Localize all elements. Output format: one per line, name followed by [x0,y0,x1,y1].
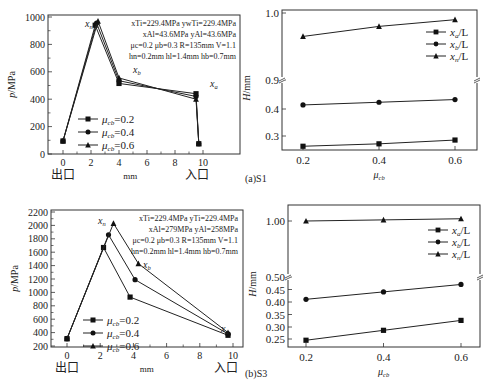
point-label: xn [84,18,93,30]
x-tick-label: 0.6 [448,154,462,166]
y-tick-label: 200 [30,121,45,132]
y-tick-label: 800 [33,300,48,311]
square-marker [300,144,305,149]
x-tick-label: 0.6 [454,351,468,363]
y-tick-label: 1800 [28,233,48,244]
legend-label: μcb=0.6 [101,139,135,153]
entry-label: 入口 [185,168,209,182]
point-label: xa [220,323,229,335]
square-marker [303,338,308,343]
x-tick-label: 0.2 [299,351,313,363]
point-label: xa [209,78,218,90]
y-axis-label: H/mm [241,75,252,102]
square-marker [436,228,441,233]
y-tick-label: 2200 [28,207,48,218]
y-tick-label: 1.00 [266,215,286,227]
panel-a-pressure: 020040060080010000246810p/MPamm出口入口xnxbx… [6,12,240,183]
legend-label: μcb=0.4 [106,327,140,341]
x-tick-label: 0 [65,350,70,361]
x-tick-label: 10 [198,157,208,168]
circle-marker [434,42,439,47]
axis-break-gap [285,274,291,280]
x-tick-label: 10 [228,350,238,361]
y-tick-label: 400 [30,94,45,105]
x-tick-label: 8 [173,157,178,168]
y-tick-label: 1000 [25,12,45,23]
info-text: μc=0.2 μb=0.3 R=135mm V=1.1 [130,41,236,50]
info-text: xTi=229.4MPa yTi=229.4MPa [139,214,238,223]
axis-break-gap [474,77,480,83]
y-tick-label: 0.25 [266,333,286,345]
panel-caption: (a)S1 [245,173,267,185]
point-label: xb [132,64,141,76]
x-tick-label: 2 [89,157,94,168]
legend-label: xn/L [449,50,469,64]
y-tick-label: 1200 [28,274,48,285]
legend-label: xn/L [451,248,471,262]
x-tick-label: 0.4 [377,351,391,363]
x-axis-label: mm [123,171,137,181]
square-marker [458,318,463,323]
y-tick-label: 800 [30,39,45,50]
square-marker [434,30,439,35]
x-tick-label: 8 [197,350,202,361]
x-axis-label: μcb [373,169,386,181]
circle-marker [452,97,457,102]
y-tick-label: 1600 [28,247,48,258]
x-tick-label: 6 [145,157,150,168]
y-tick-label: 0 [40,149,45,160]
circle-marker [436,240,441,245]
circle-marker [300,102,305,107]
circle-marker [458,282,463,287]
x-tick-label: 6 [164,350,169,361]
exit-label: 出口 [51,168,75,182]
panel-b-height: 1.000.500.450.400.350.300.250.20.40.6H/m… [245,205,483,380]
y-tick-label: 0.3 [265,130,279,142]
legend-label: μcb=0.4 [101,126,135,140]
legend-label: μcb=0.2 [106,314,139,328]
panel-a-height: 1.00.90.40.30.20.40.6H/mmμcb(a)S1xa/Lxb/… [241,7,480,185]
circle-marker [303,297,308,302]
square-marker [91,318,96,323]
legend-label: μcb=0.6 [106,340,140,354]
y-axis-label: p/MPa [9,265,20,293]
circle-marker [376,100,381,105]
y-tick-label: 0.9 [265,74,279,86]
y-tick-label: 0.4 [265,103,279,115]
triangle-marker [111,220,117,226]
figure: 020040060080010000246810p/MPamm出口入口xnxbx… [0,0,489,387]
exit-label: 出口 [55,361,79,375]
y-tick-label: 1000 [28,287,48,298]
panel-b-pressure: 2004006008001000120014001600180020002200… [9,207,243,376]
point-label: xb [142,259,151,271]
info-text: μc=0.2 μb=0.3 R=135mm V=1.1 [132,236,238,245]
series-line [67,248,228,339]
y-tick-label: 600 [33,314,48,325]
y-tick-label: 0.45 [266,284,286,296]
info-text: hn=0.2mm hl=1.4mm hb=0.7mm [129,52,237,61]
x-tick-label: 4 [117,157,122,168]
x-axis-label: mm [140,364,154,374]
square-marker [127,294,132,299]
circle-marker [132,277,137,282]
x-tick-label: 2 [98,350,103,361]
point-label: xn [97,215,106,227]
legend-label: μcb=0.2 [101,113,134,127]
info-text: xTi=229.4MPa ywTi=229.4MPa [131,19,236,28]
circle-marker [86,130,91,135]
x-tick-label: 0 [61,157,66,168]
y-tick-label: 1.0 [265,7,279,19]
axis-break-gap [279,77,285,83]
square-marker [86,117,91,122]
y-tick-label: 0.30 [266,321,286,333]
y-tick-label: 0.50 [266,271,286,283]
info-text: xAl=279MPa yAl=258MPa [149,225,239,234]
x-tick-label: 0.2 [296,154,310,166]
panel-caption: (b)S3 [245,368,267,380]
square-marker [452,137,457,142]
circle-marker [381,289,386,294]
triangle-marker [135,260,141,266]
circle-marker [91,331,96,336]
y-tick-label: 200 [33,341,48,352]
info-text: hn=0.2mm hl=1.4mm hb=0.7mm [131,247,239,256]
